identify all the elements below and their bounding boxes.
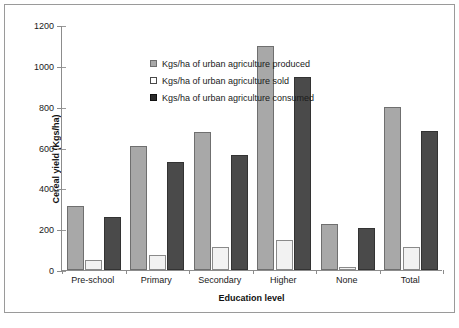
bar-secondary-sold: [212, 247, 229, 270]
legend-item: Kgs/ha of urban agriculture consumed: [150, 89, 314, 106]
x-category-label: Secondary: [188, 275, 252, 285]
x-tick: [126, 270, 127, 274]
x-tick: [380, 270, 381, 274]
legend-item: Kgs/ha of urban agriculture produced: [150, 55, 314, 72]
x-category-label: Pre-school: [61, 275, 125, 285]
y-tick-label: 400: [39, 184, 54, 194]
y-tick-label: 1200: [34, 21, 54, 31]
legend-item: Kgs/ha of urban agriculture sold: [150, 72, 314, 89]
bar-total-sold: [403, 247, 420, 270]
x-tick: [443, 270, 444, 274]
bar-primary-sold: [149, 255, 166, 270]
y-tick-inner: [62, 26, 66, 27]
bar-primary-produced: [130, 146, 147, 270]
y-tick-label: 0: [49, 266, 54, 276]
chart-frame: Cereal yield (Kgs/ha) 020040060080010001…: [4, 4, 455, 313]
legend-swatch-sold: [150, 77, 157, 84]
y-tick-label: 800: [39, 103, 54, 113]
bar-none-sold: [339, 267, 356, 270]
x-tick: [189, 270, 190, 274]
plot-area: 020040060080010001200 Kgs/ha of urban ag…: [61, 26, 442, 271]
y-tick-inner: [62, 149, 66, 150]
x-tick: [62, 270, 63, 274]
bar-pre-school-sold: [85, 260, 102, 270]
bar-none-consumed: [358, 228, 375, 270]
bar-primary-consumed: [167, 162, 184, 270]
chart-figure: Cereal yield (Kgs/ha) 020040060080010001…: [0, 0, 459, 328]
bar-higher-consumed: [294, 77, 311, 270]
x-category-label: Primary: [125, 275, 189, 285]
x-tick: [253, 270, 254, 274]
legend-swatch-produced: [150, 60, 157, 67]
y-tick-label: 200: [39, 225, 54, 235]
y-tick-label: 1000: [34, 62, 54, 72]
bar-secondary-consumed: [231, 155, 248, 270]
bar-none-produced: [321, 224, 338, 270]
legend-label-sold: Kgs/ha of urban agriculture sold: [162, 76, 289, 86]
y-tick-inner: [62, 108, 66, 109]
legend-label-consumed: Kgs/ha of urban agriculture consumed: [162, 93, 314, 103]
bar-pre-school-consumed: [104, 217, 121, 270]
y-tick-inner: [62, 67, 66, 68]
y-tick-inner: [62, 230, 66, 231]
x-tick: [316, 270, 317, 274]
chart-legend: Kgs/ha of urban agriculture produced Kgs…: [150, 55, 314, 106]
bar-total-produced: [384, 107, 401, 270]
bar-higher-sold: [276, 240, 293, 270]
legend-label-produced: Kgs/ha of urban agriculture produced: [162, 59, 310, 69]
y-tick-label: 600: [39, 144, 54, 154]
bar-pre-school-produced: [67, 206, 84, 270]
y-tick-inner: [62, 189, 66, 190]
x-category-label: Total: [379, 275, 443, 285]
legend-swatch-consumed: [150, 94, 157, 101]
x-axis-title: Education level: [61, 293, 442, 303]
x-category-label: Higher: [252, 275, 316, 285]
bar-total-consumed: [421, 131, 438, 270]
x-category-label: None: [315, 275, 379, 285]
bar-secondary-produced: [194, 132, 211, 270]
